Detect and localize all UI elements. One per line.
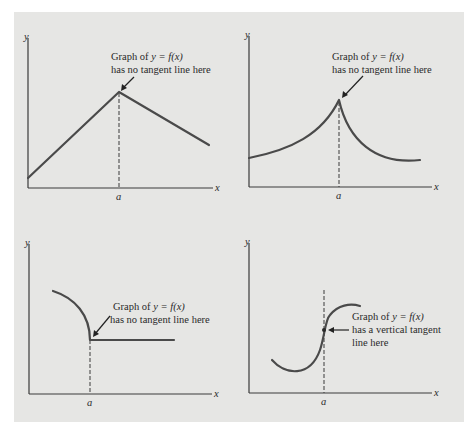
tangent-point bbox=[322, 328, 326, 332]
x-axis-label: x bbox=[433, 181, 439, 192]
annotation-line-1: Graph of y = f(x) bbox=[332, 51, 404, 63]
y-axis-label: y bbox=[23, 31, 29, 42]
tick-label-a: a bbox=[336, 190, 341, 201]
x-axis-label: x bbox=[214, 182, 220, 193]
panel-cusp: y x a Graph of y = f(x) has no tangent l… bbox=[244, 29, 439, 201]
tick-label-a: a bbox=[116, 191, 121, 202]
tangent-line-figure: y x a Graph of y = f(x) has no tangent l… bbox=[0, 0, 468, 427]
panel-corner: y x a Graph of y = f(x) has no tangent l… bbox=[23, 31, 220, 202]
arrow-icon bbox=[345, 76, 363, 95]
annotation-line-3: line here bbox=[352, 337, 389, 348]
tick-label-a: a bbox=[321, 396, 326, 407]
annotation-line-2: has a vertical tangent bbox=[352, 324, 441, 335]
x-axis-label: x bbox=[433, 387, 439, 398]
annotation-line-1: Graph of y = f(x) bbox=[111, 51, 183, 63]
y-axis-label: y bbox=[24, 237, 30, 248]
tick-label-a: a bbox=[87, 397, 92, 408]
panel-arc-horizontal: y x a Graph of y = f(x) has no tangent l… bbox=[24, 237, 219, 408]
annotation-line-2: has no tangent line here bbox=[332, 64, 432, 75]
arrow-icon bbox=[95, 316, 110, 334]
annotation-line-1: Graph of y = f(x) bbox=[113, 301, 185, 313]
function-graph bbox=[249, 100, 420, 161]
function-graph bbox=[272, 305, 360, 372]
annotation-line-1: Graph of y = f(x) bbox=[352, 311, 424, 323]
y-axis-label: y bbox=[244, 29, 250, 40]
x-axis-label: x bbox=[213, 388, 219, 399]
panel-vertical-tangent: y x a Graph of y = f(x) has a vertical t… bbox=[244, 236, 441, 407]
arrowhead-icon bbox=[328, 327, 334, 333]
annotation-line-2: has no tangent line here bbox=[111, 64, 211, 75]
y-axis-label: y bbox=[244, 236, 250, 247]
annotation-line-2: has no tangent line here bbox=[110, 314, 210, 325]
